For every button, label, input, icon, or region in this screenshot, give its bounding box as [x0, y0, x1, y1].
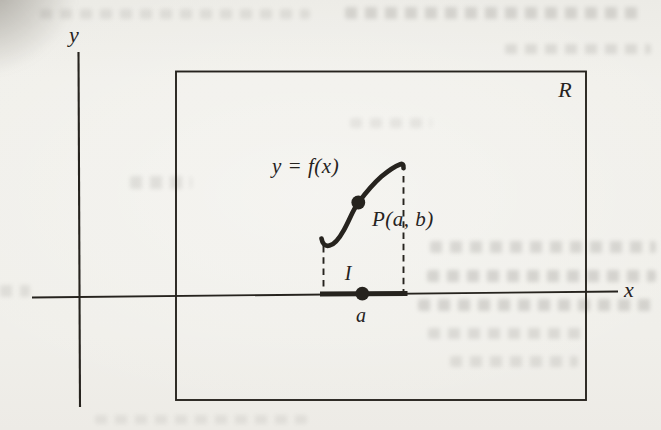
point-P-dot: [351, 196, 365, 210]
curve-equation-label: y = f(x): [270, 154, 339, 178]
interval-point-a-dot: [355, 287, 369, 301]
point-label: P(a, b): [371, 207, 434, 231]
abscissa-label: a: [356, 304, 366, 326]
interval-label: I: [344, 262, 353, 284]
rectangle-label: R: [557, 77, 572, 102]
region-rectangle: [176, 72, 586, 401]
y-axis: [79, 52, 81, 407]
x-axis-label: x: [623, 277, 634, 302]
coordinate-plane-diagram: y x R y = f(x) P(a, b) I a: [0, 0, 661, 430]
y-axis-label: y: [67, 22, 79, 47]
scanned-textbook-figure: y x R y = f(x) P(a, b) I a: [0, 0, 661, 430]
